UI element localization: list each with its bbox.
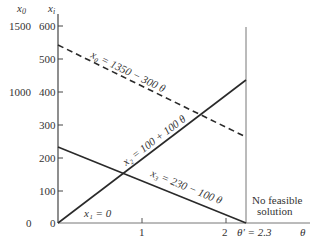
theta-axis-label: θ [300, 226, 306, 238]
label-x3-eq: x₃ = 230 − 100 θ [148, 166, 224, 206]
xi-tick-600: 600 [39, 20, 56, 32]
xi-tick-400: 400 [39, 86, 56, 98]
xi-tick-200: 200 [39, 152, 56, 164]
x0-tick-1000: 1000 [9, 86, 32, 98]
label-x0-eq: x₀ = 1350 − 300 θ [88, 48, 168, 95]
xi-tick-500: 500 [39, 53, 56, 65]
x0-tick-0: 0 [26, 217, 32, 229]
x-tick-1: 1 [139, 226, 145, 238]
theta-prime-label: θ' = 2.3 [237, 226, 272, 238]
xi-tick-0: 0 [50, 217, 56, 229]
label-x2-eq: x₂ = 100 + 100 θ [119, 112, 188, 168]
xi-tick-300: 300 [39, 119, 56, 131]
label-x1-eq: x₁ = 0 [83, 207, 112, 219]
no-feasible-label-2: solution [257, 205, 293, 217]
xi-tick-100: 100 [39, 185, 56, 197]
xi-axis-label: xi [47, 2, 55, 16]
line-x0-dashed [58, 45, 246, 137]
y-ticks [58, 26, 63, 191]
x0-axis-label: x0 [16, 2, 26, 16]
x0-tick-1500: 1500 [9, 20, 32, 32]
x-ticks [142, 218, 226, 223]
x-tick-2: 2 [222, 226, 228, 238]
parametric-lp-chart: x0 xi 1500 1000 0 600 500 400 300 200 10… [0, 0, 316, 245]
